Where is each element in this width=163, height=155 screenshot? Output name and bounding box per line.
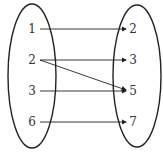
domain-label: 2 <box>28 54 36 66</box>
domain-label: 3 <box>28 85 36 97</box>
codomain-label: 7 <box>129 116 137 128</box>
codomain-ellipse <box>113 5 161 147</box>
codomain-label: 5 <box>129 85 137 97</box>
domain-label: 1 <box>28 23 36 35</box>
domain-label: 6 <box>28 116 36 128</box>
mapping-diagram <box>0 0 163 155</box>
codomain-label: 2 <box>129 23 137 35</box>
codomain-label: 3 <box>129 54 137 66</box>
